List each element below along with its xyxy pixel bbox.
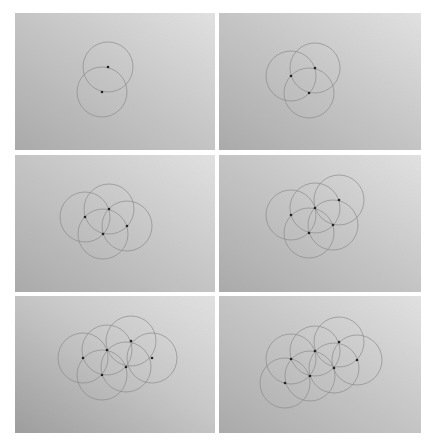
center-point-dot	[126, 225, 129, 228]
photo-panel-step-4: Step 4: five circles	[219, 155, 421, 292]
center-point-dot	[82, 357, 85, 360]
center-point-dot	[106, 349, 109, 352]
center-point-dot	[314, 350, 317, 353]
center-point-dot	[101, 374, 104, 377]
paper-grain	[219, 13, 421, 150]
photo-panel-step-3: Step 3: four circles	[15, 155, 215, 292]
photo-panel-step-5: Step 5: six circles	[15, 296, 215, 433]
center-point-dot	[108, 208, 111, 211]
construction-drawing	[219, 13, 421, 150]
center-point-dot	[314, 67, 317, 70]
center-point-dot	[290, 75, 293, 78]
center-point-dot	[125, 366, 128, 369]
photo-grid: Step 1: two circlesStep 2: three circles…	[0, 0, 433, 446]
photo-panel-step-6: Step 6: seven circles	[219, 296, 421, 433]
center-point-dot	[356, 359, 359, 362]
center-point-dot	[333, 367, 336, 370]
paper-grain	[15, 296, 215, 433]
center-point-dot	[84, 216, 87, 219]
center-point-dot	[102, 233, 105, 236]
construction-drawing	[15, 296, 215, 433]
center-point-dot	[107, 66, 110, 69]
center-point-dot	[130, 340, 133, 343]
center-point-dot	[332, 224, 335, 227]
construction-drawing	[15, 13, 215, 150]
paper-grain	[219, 155, 421, 292]
center-point-dot	[338, 341, 341, 344]
center-point-dot	[309, 375, 312, 378]
paper-grain	[219, 296, 421, 433]
center-point-dot	[290, 358, 293, 361]
center-point-dot	[314, 207, 317, 210]
center-point-dot	[308, 232, 311, 235]
center-point-dot	[101, 91, 104, 94]
construction-drawing	[219, 296, 421, 433]
center-point-dot	[284, 382, 287, 385]
photo-panel-step-1: Step 1: two circles	[15, 13, 215, 150]
paper-grain	[15, 155, 215, 292]
center-point-dot	[151, 357, 154, 360]
construction-drawing	[219, 155, 421, 292]
paper-grain	[15, 13, 215, 150]
center-point-dot	[338, 199, 341, 202]
center-point-dot	[290, 214, 293, 217]
center-point-dot	[308, 92, 311, 95]
construction-drawing	[15, 155, 215, 292]
photo-panel-step-2: Step 2: three circles	[219, 13, 421, 150]
